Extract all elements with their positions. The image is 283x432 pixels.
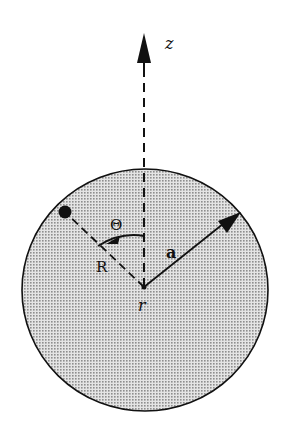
z-axis-label: z	[165, 36, 173, 52]
z-arrow-head-icon	[137, 33, 151, 63]
sphere-diagram	[0, 0, 283, 432]
theta-label: Θ	[110, 218, 122, 233]
r-label: r	[138, 298, 146, 314]
a-label: a	[166, 245, 176, 261]
R-label: R	[96, 260, 107, 275]
origin-point	[142, 285, 147, 290]
diagram-canvas: z Θ R a r	[0, 0, 283, 432]
point-dot	[59, 206, 72, 219]
